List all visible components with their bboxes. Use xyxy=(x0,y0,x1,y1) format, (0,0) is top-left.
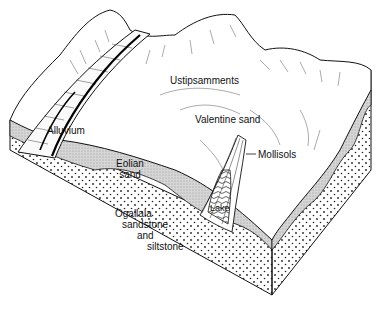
label-eolian-sand-1: Eolian xyxy=(115,158,145,169)
label-lake: Lake xyxy=(210,203,230,214)
label-ogallala-1: Ogallala xyxy=(115,208,152,219)
label-ogallala-3: and xyxy=(137,230,154,241)
label-eolian-sand-2: sand xyxy=(115,169,145,180)
label-mollisols: Mollisols xyxy=(258,149,296,160)
label-ogallala-2: sandstone xyxy=(122,219,168,230)
label-valentine-sand: Valentine sand xyxy=(195,114,260,125)
label-ustipsamments: Ustipsamments xyxy=(170,75,239,86)
label-alluvium: Alluvium xyxy=(47,125,85,136)
label-ogallala-4: siltstone xyxy=(147,241,184,252)
block-diagram xyxy=(0,0,379,317)
